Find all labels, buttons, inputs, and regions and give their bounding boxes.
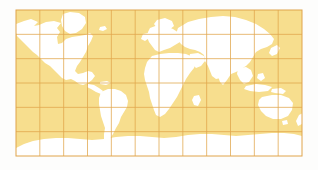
world-map-figure: World Map Equirectangular world map with… — [0, 0, 318, 170]
world-map-canvas — [0, 0, 318, 170]
